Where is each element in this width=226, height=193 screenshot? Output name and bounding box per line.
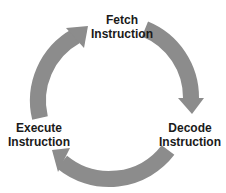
arrow-execute-to-fetch (38, 26, 88, 118)
step-execute-line1: Execute (4, 121, 74, 135)
step-fetch-line2: Instruction (82, 27, 162, 41)
step-fetch-instruction: Fetch Instruction (82, 13, 162, 41)
step-fetch-line1: Fetch (82, 13, 162, 27)
arrow-decode-to-execute (52, 148, 168, 179)
arrow-fetch-to-decode (145, 29, 204, 114)
step-execute-line2: Instruction (4, 135, 74, 149)
step-execute-instruction: Execute Instruction (4, 121, 74, 149)
step-decode-line1: Decode (154, 121, 226, 135)
step-decode-instruction: Decode Instruction (154, 121, 226, 149)
step-decode-line2: Instruction (154, 135, 226, 149)
